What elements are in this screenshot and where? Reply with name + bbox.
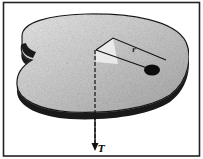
radius-label: r xyxy=(132,46,136,53)
diagram-canvas xyxy=(0,0,203,159)
axis-vector-label: T xyxy=(98,145,105,154)
lamina-surface xyxy=(17,14,189,112)
point-mass xyxy=(144,65,160,76)
lamina-diagram: r T xyxy=(0,0,203,159)
